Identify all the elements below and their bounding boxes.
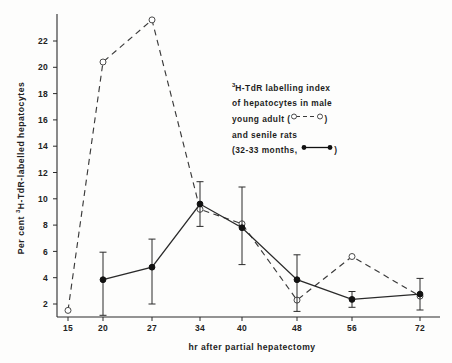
x-tick-label-15: 15 xyxy=(63,323,73,333)
y-axis-ticks xyxy=(53,41,57,304)
y-axis-label-prefix: Per cent xyxy=(16,213,26,254)
legend-line-1-text: H-TdR labelling index xyxy=(235,83,330,93)
data-point-open-27 xyxy=(149,17,155,23)
y-tick-label-8: 8 xyxy=(43,220,48,230)
x-tick-label-27: 27 xyxy=(147,323,157,333)
x-tick-label-34: 34 xyxy=(195,323,205,333)
x-tick-label-20: 20 xyxy=(98,323,108,333)
legend-line-1: 3H-TdR labelling index xyxy=(232,78,422,96)
legend-line-4: and senile rats xyxy=(232,128,422,144)
y-tick-label-4: 4 xyxy=(43,273,48,283)
y-tick-label-14: 14 xyxy=(38,141,48,151)
legend-line-5-text-post: ) xyxy=(334,145,337,155)
series-senile-rats xyxy=(100,182,424,316)
error-bar-27 xyxy=(149,239,156,304)
y-tick-label-2: 2 xyxy=(43,299,48,309)
error-bar-20 xyxy=(100,252,107,315)
legend-line-3-text-pre: young adult ( xyxy=(232,114,290,124)
legend-line-5: (32-33 months, ) xyxy=(232,143,422,159)
data-point-filled-40 xyxy=(239,225,245,231)
legend-line-2-text: of hepatocytes in male xyxy=(232,98,332,108)
x-tick-label-40: 40 xyxy=(237,323,247,333)
x-tick-label-56: 56 xyxy=(347,323,357,333)
data-point-open-56 xyxy=(349,254,355,260)
x-axis-ticks xyxy=(68,317,420,321)
legend-line-3-text-post: ) xyxy=(324,114,327,124)
legend-symbol-young-adult xyxy=(290,111,324,127)
legend-line-3: young adult () xyxy=(232,112,422,128)
data-point-open-15 xyxy=(65,307,71,313)
data-point-filled-56 xyxy=(349,297,355,303)
y-axis-label-suffix: H-TdR-labelled hepatocytes xyxy=(16,82,26,209)
y-tick-label-16: 16 xyxy=(38,115,48,125)
y-tick-label-10: 10 xyxy=(38,194,48,204)
data-point-filled-48 xyxy=(294,277,300,283)
series-young-adult-line xyxy=(68,20,420,311)
svg-text:Per cent 3H-TdR-labelled hepat: Per cent 3H-TdR-labelled hepatocytes xyxy=(15,82,26,255)
chart-canvas: 2 4 6 8 10 12 14 16 18 20 22 15 20 27 34… xyxy=(0,0,452,363)
legend-line-2: of hepatocytes in male xyxy=(232,96,422,112)
legend-line-5-text-pre: (32-33 months, xyxy=(232,145,300,155)
x-axis-label: hr after partial hepatectomy xyxy=(188,342,315,352)
y-tick-label-20: 20 xyxy=(38,62,48,72)
x-tick-label-72: 72 xyxy=(415,323,425,333)
figure-container: 2 4 6 8 10 12 14 16 18 20 22 15 20 27 34… xyxy=(0,0,452,363)
data-point-filled-20 xyxy=(100,277,106,283)
y-axis-label: Per cent 3H-TdR-labelled hepatocytes xyxy=(15,82,26,255)
chart-legend: 3H-TdR labelling index of hepatocytes in… xyxy=(232,78,422,159)
series-young-adult xyxy=(65,17,423,314)
y-tick-label-12: 12 xyxy=(38,168,48,178)
y-tick-label-22: 22 xyxy=(38,36,48,46)
y-tick-label-6: 6 xyxy=(43,247,48,257)
y-tick-label-18: 18 xyxy=(38,89,48,99)
legend-symbol-senile-rats xyxy=(300,142,334,158)
data-point-open-20 xyxy=(100,59,106,65)
data-point-filled-34 xyxy=(197,201,203,207)
legend-line-4-text: and senile rats xyxy=(232,130,297,140)
data-point-filled-27 xyxy=(149,264,155,270)
x-tick-label-48: 48 xyxy=(292,323,302,333)
data-point-filled-72 xyxy=(417,291,423,297)
